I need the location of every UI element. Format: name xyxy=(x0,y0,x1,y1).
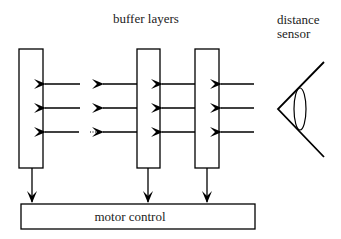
buffer-layer-1 xyxy=(19,49,43,168)
buffer-layer-3 xyxy=(195,49,219,168)
distance-sensor-label-line1: distance xyxy=(277,12,320,27)
eye-icon xyxy=(278,62,324,157)
arrows-layer-3-to-layer-2 xyxy=(162,84,195,132)
buffer-layers-label: buffer layers xyxy=(113,11,179,26)
distance-sensor-label-line2: sensor xyxy=(277,26,311,41)
arrows-into-layer-1 xyxy=(45,84,80,132)
diagram-canvas: buffer layers distance sensor xyxy=(0,0,341,239)
buffer-layer-2 xyxy=(137,49,160,168)
arrows-to-motor-control xyxy=(32,168,207,202)
motor-control-label: motor control xyxy=(94,209,166,224)
arrows-sensor-to-layer-3 xyxy=(221,84,254,132)
arrows-out-of-layer-2 xyxy=(103,84,137,132)
